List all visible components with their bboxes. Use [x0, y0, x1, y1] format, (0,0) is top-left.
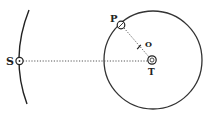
- planet-marker: [117, 21, 125, 29]
- label-t: T: [148, 67, 155, 77]
- earth-marker: [148, 56, 156, 64]
- label-s: S: [6, 55, 14, 68]
- orbit-diagram: S P T O: [0, 0, 212, 115]
- sun-marker: [16, 57, 23, 64]
- label-p: P: [110, 13, 118, 24]
- label-o: O: [145, 39, 152, 49]
